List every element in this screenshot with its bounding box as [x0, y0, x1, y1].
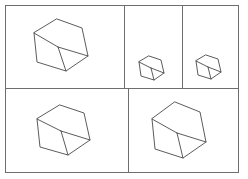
figure-root: [0, 0, 248, 179]
cube-spoke-lower-right: [151, 68, 164, 73]
cube-spoke-bottom: [61, 131, 68, 155]
cube-outline-hexagon: [152, 102, 206, 158]
cube-top-middle: [139, 56, 164, 80]
cube-spoke-bottom: [177, 133, 183, 158]
cube-spoke-upper-left: [37, 119, 61, 131]
cube-spoke-lower-right: [58, 47, 88, 56]
cube-spoke-bottom: [58, 47, 66, 71]
cube-spoke-upper-left: [34, 33, 58, 47]
cube-top-right: [196, 55, 221, 79]
figure-canvas: [0, 0, 248, 179]
cube-spoke-bottom: [151, 68, 154, 80]
cube-spoke-bottom: [208, 67, 211, 79]
cube-bottom-left: [37, 105, 90, 155]
cube-outline-hexagon: [37, 105, 90, 155]
cube-outline-hexagon: [34, 19, 88, 71]
cube-spoke-upper-left: [196, 61, 208, 67]
cube-spoke-lower-right: [177, 133, 206, 142]
cube-top-left: [34, 19, 88, 71]
cube-spoke-lower-right: [61, 131, 90, 140]
cube-spoke-upper-left: [152, 119, 177, 133]
cube-spoke-upper-left: [139, 62, 151, 68]
cube-spoke-lower-right: [208, 67, 221, 72]
cube-bottom-right: [152, 102, 206, 158]
